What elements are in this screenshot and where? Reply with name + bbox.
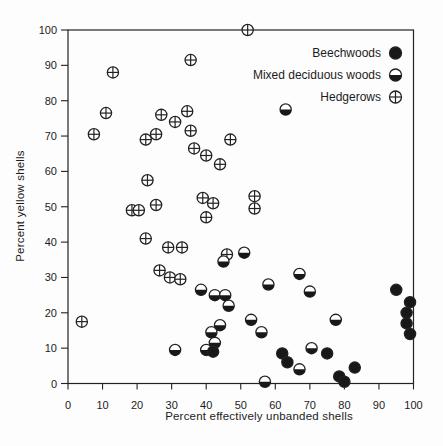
data-point-hedgerows bbox=[154, 265, 165, 276]
data-point-hedgerows bbox=[107, 67, 118, 78]
data-point-hedgerows bbox=[201, 150, 212, 161]
data-point-hedgerows bbox=[88, 129, 99, 140]
data-point-hedgerows bbox=[140, 134, 151, 145]
data-point-hedgerows bbox=[214, 159, 225, 170]
data-point-mixed-deciduous-woods bbox=[256, 327, 267, 338]
data-point-beechwoods bbox=[401, 318, 412, 329]
data-point-beechwoods bbox=[208, 346, 219, 357]
data-point-mixed-deciduous-woods bbox=[263, 279, 274, 290]
y-tick-label: 70 bbox=[45, 130, 57, 142]
data-point-mixed-deciduous-woods bbox=[294, 364, 305, 375]
data-point-hedgerows bbox=[133, 205, 144, 216]
data-point-hedgerows bbox=[201, 212, 212, 223]
data-point-hedgerows bbox=[242, 24, 253, 35]
data-point-hedgerows bbox=[249, 203, 260, 214]
x-axis-title: Percent effectively unbanded shells bbox=[0, 410, 443, 422]
data-point-hedgerows bbox=[142, 175, 153, 186]
data-point-mixed-deciduous-woods bbox=[259, 376, 270, 387]
data-point-beechwoods bbox=[404, 297, 415, 308]
legend-marker-mixed-deciduous-woods bbox=[390, 69, 402, 81]
data-point-hedgerows bbox=[182, 106, 193, 117]
data-point-hedgerows bbox=[225, 134, 236, 145]
data-point-mixed-deciduous-woods bbox=[206, 327, 217, 338]
y-tick-label: 100 bbox=[39, 24, 57, 36]
data-point-hedgerows bbox=[76, 316, 87, 327]
chart-canvas: 0102030405060708090100010203040506070809… bbox=[0, 0, 443, 446]
data-point-hedgerows bbox=[208, 198, 219, 209]
data-point-mixed-deciduous-woods bbox=[209, 290, 220, 301]
data-point-hedgerows bbox=[163, 242, 174, 253]
data-point-mixed-deciduous-woods bbox=[304, 286, 315, 297]
y-tick-label: 80 bbox=[45, 95, 57, 107]
data-point-beechwoods bbox=[404, 328, 415, 339]
data-point-mixed-deciduous-woods bbox=[223, 300, 234, 311]
data-point-beechwoods bbox=[349, 362, 360, 373]
data-point-beechwoods bbox=[282, 357, 293, 368]
data-point-mixed-deciduous-woods bbox=[220, 290, 231, 301]
data-point-hedgerows bbox=[249, 191, 260, 202]
y-tick-label: 90 bbox=[45, 59, 57, 71]
data-point-hedgerows bbox=[151, 129, 162, 140]
y-tick-label: 60 bbox=[45, 165, 57, 177]
y-tick-label: 0 bbox=[51, 378, 57, 390]
data-point-beechwoods bbox=[339, 376, 350, 387]
plot-frame bbox=[68, 30, 414, 384]
data-point-mixed-deciduous-woods bbox=[170, 344, 181, 355]
y-tick-label: 50 bbox=[45, 201, 57, 213]
y-tick-label: 40 bbox=[45, 236, 57, 248]
data-point-mixed-deciduous-woods bbox=[306, 343, 317, 354]
legend-marker-beechwoods bbox=[390, 47, 402, 59]
data-point-hedgerows bbox=[140, 233, 151, 244]
data-point-hedgerows bbox=[189, 143, 200, 154]
data-point-beechwoods bbox=[391, 284, 402, 295]
data-point-mixed-deciduous-woods bbox=[195, 284, 206, 295]
data-point-hedgerows bbox=[156, 109, 167, 120]
data-point-beechwoods bbox=[401, 307, 412, 318]
data-point-mixed-deciduous-woods bbox=[294, 268, 305, 279]
y-tick-label: 10 bbox=[45, 342, 57, 354]
data-point-hedgerows bbox=[197, 192, 208, 203]
data-point-mixed-deciduous-woods bbox=[280, 104, 291, 115]
data-point-hedgerows bbox=[185, 125, 196, 136]
legend-item-beechwoods: Beechwoods bbox=[312, 46, 381, 60]
y-axis-title: Percent yellow shells bbox=[14, 126, 26, 286]
data-point-hedgerows bbox=[185, 54, 196, 65]
data-point-mixed-deciduous-woods bbox=[239, 247, 250, 258]
legend-item-hedgerows: Hedgerows bbox=[320, 90, 381, 104]
data-point-hedgerows bbox=[170, 116, 181, 127]
y-tick-label: 20 bbox=[45, 307, 57, 319]
data-point-hedgerows bbox=[175, 274, 186, 285]
data-point-hedgerows bbox=[100, 107, 111, 118]
legend-item-mixed-deciduous-woods: Mixed deciduous woods bbox=[253, 68, 381, 82]
data-point-mixed-deciduous-woods bbox=[330, 314, 341, 325]
y-tick-label: 30 bbox=[45, 271, 57, 283]
data-point-mixed-deciduous-woods bbox=[246, 314, 257, 325]
data-point-hedgerows bbox=[151, 199, 162, 210]
data-point-beechwoods bbox=[322, 348, 333, 359]
data-point-hedgerows bbox=[164, 272, 175, 283]
legend-marker-hedgerows bbox=[390, 91, 402, 103]
data-point-mixed-deciduous-woods bbox=[218, 256, 229, 267]
data-point-hedgerows bbox=[176, 242, 187, 253]
scatter-plot-figure: 0102030405060708090100010203040506070809… bbox=[0, 0, 443, 446]
